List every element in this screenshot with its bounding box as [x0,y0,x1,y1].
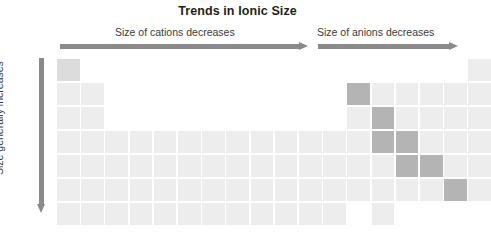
periodic-table-cell [420,107,443,129]
periodic-table-cell [57,179,80,201]
periodic-table-cell [275,155,298,177]
periodic-table-cell [178,155,201,177]
periodic-table-cell [347,179,370,201]
periodic-table-cell [105,131,128,153]
periodic-table-cell [202,155,225,177]
periodic-table-cell [57,131,80,153]
periodic-table-cell [372,107,395,129]
periodic-table-cell [420,83,443,105]
periodic-table-cell [57,83,80,105]
periodic-table-cell [202,131,225,153]
periodic-table-cell [323,179,346,201]
vertical-trend-arrow-icon: Size generally increases [37,58,46,213]
periodic-table-cell [347,155,370,177]
figure-title: Trends in Ionic Size [0,4,475,18]
periodic-table-cell [251,203,274,225]
arrow-shaft [60,44,299,49]
periodic-table-cell [468,83,491,105]
periodic-table-cell [251,131,274,153]
periodic-table-cell [323,203,346,225]
periodic-table-cell [57,107,80,129]
cations-trend-arrow-icon [60,42,308,51]
periodic-table-cell [226,155,249,177]
periodic-table-cell [130,179,153,201]
arrow-head [37,204,45,213]
periodic-table-cell [372,155,395,177]
periodic-table-cell [396,179,419,201]
periodic-table-cell [178,131,201,153]
periodic-table-cell [57,59,80,81]
periodic-table-cell [81,83,104,105]
periodic-table-cell [105,179,128,201]
periodic-table-cell [468,155,491,177]
periodic-table-cell [154,131,177,153]
periodic-table-cell [444,155,467,177]
periodic-table-cell [347,83,370,105]
periodic-table-cell [154,203,177,225]
periodic-table-cell [178,179,201,201]
periodic-table-cell [81,131,104,153]
periodic-table-cell [251,155,274,177]
periodic-table-cell [396,83,419,105]
periodic-table-cell [130,203,153,225]
periodic-table-cell [372,83,395,105]
periodic-table-cell [372,179,395,201]
periodic-table-cell [299,203,322,225]
periodic-table-cell [299,131,322,153]
periodic-table-cell [323,155,346,177]
periodic-table-cell [57,203,80,225]
periodic-table-cell [154,155,177,177]
periodic-table-cell [226,179,249,201]
periodic-table-cell [396,155,419,177]
periodic-table-cell [396,131,419,153]
periodic-table-cell [396,107,419,129]
arrow-head [449,42,458,50]
periodic-table-cell [130,155,153,177]
periodic-table-cell [81,155,104,177]
arrow-head [299,42,308,50]
vertical-trend-label: Size generally increases [0,25,5,175]
periodic-table-cell [57,155,80,177]
periodic-table-cell [81,203,104,225]
periodic-table-cell [202,203,225,225]
periodic-table-cell [444,83,467,105]
periodic-table-cell [275,203,298,225]
periodic-table-cell [154,179,177,201]
periodic-table-cell [347,131,370,153]
periodic-table-cell [299,155,322,177]
periodic-table-cell [468,59,491,81]
periodic-table-cell [468,179,491,201]
anions-trend-label: Size of anions decreases [317,26,434,38]
periodic-table-cell [323,131,346,153]
periodic-table-cell [468,131,491,153]
periodic-table-cell [444,107,467,129]
cations-trend-label: Size of cations decreases [115,26,235,38]
periodic-table-cell [105,203,128,225]
arrow-shaft [39,58,44,204]
periodic-table-cell [444,179,467,201]
periodic-table-cell [275,179,298,201]
periodic-table-cell [444,131,467,153]
periodic-table-cell [468,107,491,129]
periodic-table-cell [299,179,322,201]
arrow-shaft [318,44,449,49]
periodic-table-cell [81,179,104,201]
periodic-table-cell [81,107,104,129]
periodic-table-cell [226,131,249,153]
periodic-table-cell [251,179,274,201]
periodic-table-cell [420,131,443,153]
periodic-table-cell [105,155,128,177]
periodic-table-cell [178,203,201,225]
periodic-table-cell [202,179,225,201]
periodic-table-cell [420,179,443,201]
periodic-table-cell [130,131,153,153]
periodic-table-cell [420,155,443,177]
periodic-table-cell [275,131,298,153]
periodic-table-cell [347,107,370,129]
periodic-table-cell [372,203,395,225]
periodic-table-cell [372,131,395,153]
anions-trend-arrow-icon [318,42,458,51]
periodic-table-cell [226,203,249,225]
